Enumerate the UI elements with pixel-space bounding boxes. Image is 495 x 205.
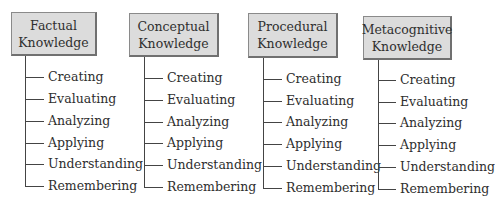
item-applying: Applying — [400, 138, 456, 152]
box-title-line1: Procedural — [258, 18, 328, 35]
item-analyzing: Analyzing — [286, 115, 348, 129]
branch-line — [263, 166, 282, 167]
branch-line — [378, 145, 396, 146]
item-remembering: Remembering — [400, 182, 489, 196]
branch-line — [378, 123, 396, 124]
item-evaluating: Evaluating — [167, 93, 235, 107]
conceptual-knowledge-box: Conceptual Knowledge — [129, 13, 219, 57]
branch-line — [263, 144, 282, 145]
box-title-line2: Knowledge — [372, 38, 442, 55]
item-applying: Applying — [286, 137, 342, 151]
branch-line — [25, 186, 44, 187]
item-remembering: Remembering — [167, 180, 256, 194]
item-understanding: Understanding — [167, 158, 262, 172]
item-understanding: Understanding — [400, 160, 495, 174]
branch-line — [263, 101, 282, 102]
branch-line — [144, 165, 163, 166]
item-remembering: Remembering — [286, 181, 375, 195]
item-analyzing: Analyzing — [48, 114, 110, 128]
branch-line — [144, 143, 163, 144]
item-understanding: Understanding — [286, 159, 381, 173]
branch-line — [144, 100, 163, 101]
branch-line — [263, 188, 282, 189]
branch-line — [25, 164, 44, 165]
box-title-line1: Conceptual — [137, 18, 209, 35]
box-title-line2: Knowledge — [18, 34, 88, 51]
box-title-line2: Knowledge — [257, 35, 327, 52]
branch-line — [378, 102, 396, 103]
item-analyzing: Analyzing — [400, 116, 462, 130]
item-creating: Creating — [48, 70, 103, 84]
item-creating: Creating — [400, 73, 455, 87]
item-creating: Creating — [286, 72, 341, 86]
item-understanding: Understanding — [48, 157, 143, 171]
branch-line — [25, 143, 44, 144]
box-title-line2: Knowledge — [138, 35, 208, 52]
box-title-line1: Factual — [30, 17, 77, 34]
branch-line — [263, 79, 282, 80]
procedural-knowledge-box: Procedural Knowledge — [248, 13, 338, 58]
item-evaluating: Evaluating — [48, 92, 116, 106]
item-evaluating: Evaluating — [286, 94, 354, 108]
metacognitive-knowledge-box: Metacognitive Knowledge — [363, 16, 452, 60]
branch-line — [144, 78, 163, 79]
branch-line — [25, 77, 44, 78]
item-evaluating: Evaluating — [400, 95, 468, 109]
branch-line — [25, 99, 44, 100]
branch-line — [378, 189, 396, 190]
branch-line — [378, 167, 396, 168]
tree-trunk-line — [263, 58, 264, 188]
branch-line — [25, 121, 44, 122]
branch-line — [144, 122, 163, 123]
item-applying: Applying — [48, 136, 104, 150]
item-remembering: Remembering — [48, 179, 137, 193]
item-creating: Creating — [167, 71, 222, 85]
branch-line — [263, 122, 282, 123]
item-applying: Applying — [167, 136, 223, 150]
branch-line — [144, 187, 163, 188]
branch-line — [378, 80, 396, 81]
factual-knowledge-box: Factual Knowledge — [11, 12, 97, 56]
box-title-line1: Metacognitive — [362, 21, 453, 38]
item-analyzing: Analyzing — [167, 115, 229, 129]
